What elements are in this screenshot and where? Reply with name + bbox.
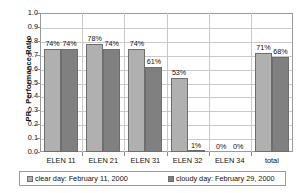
bar	[44, 49, 61, 152]
y-tick-label: 0.6	[0, 65, 38, 72]
category-separator	[167, 13, 168, 152]
bar-value-label: 74%	[57, 40, 82, 48]
bar-value-label: 53%	[167, 69, 192, 77]
legend-label-cloudy: cloudy day: February 29, 2000	[176, 174, 275, 183]
y-tick-mark	[36, 152, 40, 153]
bar	[103, 49, 120, 152]
bar-value-label: 68%	[268, 48, 293, 56]
y-tick-label: 1.0	[0, 9, 38, 16]
legend-item-clear-day: clear day: February 11, 2000	[27, 174, 128, 183]
y-tick-label: 0.7	[0, 51, 38, 58]
x-axis-labels: ELEN 11ELEN 21ELEN 31ELEN 32ELEN 34total	[40, 156, 293, 168]
legend-swatch-icon-clear	[27, 176, 33, 182]
y-tick-label: 0.5	[0, 79, 38, 86]
x-tick-label: ELEN 21	[82, 156, 124, 165]
bar-chart: PR - Performance Ratio 1.00.90.80.70.60.…	[0, 0, 305, 193]
legend-item-cloudy-day: cloudy day: February 29, 2000	[168, 174, 275, 183]
bar	[255, 53, 272, 152]
bar-value-label: 61%	[141, 58, 166, 66]
bar-value-label: 74%	[124, 40, 149, 48]
y-tick-label: 0.1	[0, 134, 38, 141]
category-separator	[124, 13, 125, 152]
y-tick-label: 0.8	[0, 37, 38, 44]
x-tick-label: ELEN 34	[209, 156, 251, 165]
x-tick-label: ELEN 32	[167, 156, 209, 165]
y-tick-label: 0.2	[0, 120, 38, 127]
chart-legend: clear day: February 11, 2000 cloudy day:…	[19, 171, 286, 186]
bar	[145, 67, 162, 152]
y-tick-label: 0.4	[0, 92, 38, 99]
x-tick-label: total	[251, 156, 293, 165]
bars-layer: 74%74%78%74%74%61%53%1%0%0%71%68%	[40, 13, 293, 152]
x-tick-label: ELEN 31	[124, 156, 166, 165]
y-tick-label: 0.3	[0, 106, 38, 113]
y-tick-label: 0.9	[0, 23, 38, 30]
bar	[188, 150, 205, 152]
y-tick-label: 0.0	[0, 148, 38, 155]
bar	[86, 44, 103, 152]
category-separator	[209, 13, 210, 152]
legend-swatch-icon-cloudy	[168, 176, 174, 182]
bar-value-label: 1%	[184, 142, 209, 150]
bar	[272, 57, 289, 152]
category-separator	[251, 13, 252, 152]
bar	[61, 49, 78, 152]
x-tick-label: ELEN 11	[40, 156, 82, 165]
bar-value-label: 74%	[99, 40, 124, 48]
legend-label-clear: clear day: February 11, 2000	[35, 174, 128, 183]
bar-value-label: 0%	[226, 143, 251, 151]
